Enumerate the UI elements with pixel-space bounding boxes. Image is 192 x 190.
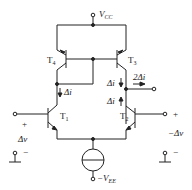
input-left-plus: + xyxy=(22,120,27,129)
vee-terminal xyxy=(91,177,95,181)
vee-label: −VEE xyxy=(97,174,116,184)
input-left-minus: − xyxy=(23,148,28,157)
output-current-label: 2Δi xyxy=(133,73,145,82)
t3-label: T3 xyxy=(128,56,137,66)
t1-label: T1 xyxy=(60,112,69,122)
current-right-bottom-label: Δi xyxy=(107,97,115,106)
output-terminal xyxy=(152,87,156,91)
circuit-schematic xyxy=(0,0,192,190)
input-left-signal: Δv xyxy=(18,135,27,144)
input-right-signal: −Δv xyxy=(168,129,183,138)
current-left-label: Δi xyxy=(64,88,72,97)
t2-label: T2 xyxy=(120,112,129,122)
vcc-label: VCC xyxy=(99,10,113,20)
current-right-top-label: Δi xyxy=(107,79,115,88)
input-right-minus: − xyxy=(173,148,178,157)
vcc-terminal xyxy=(91,13,95,17)
t4-label: T4 xyxy=(47,56,56,66)
input-right-terminal xyxy=(163,112,167,116)
input-right-plus: + xyxy=(173,110,178,119)
input-left-terminal xyxy=(13,112,17,116)
